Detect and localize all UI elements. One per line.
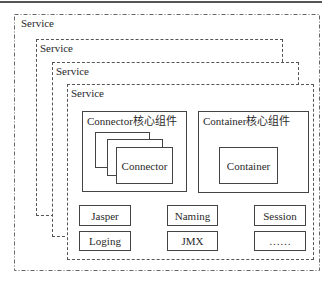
component-session: Session <box>254 205 306 226</box>
component-label: Session <box>263 210 297 222</box>
component-jmx: JMX <box>167 231 218 251</box>
service-label-1: Service <box>21 17 54 29</box>
component-label: …… <box>269 235 291 247</box>
connector-group-title: Connector核心组件 <box>87 115 177 127</box>
service-label-2: Service <box>40 42 73 54</box>
container-label: Container <box>227 160 270 172</box>
connector-box: Connector <box>116 147 173 184</box>
service-label-3: Service <box>56 65 89 77</box>
container-group-title: Container核心组件 <box>203 115 290 127</box>
service-label-4: Service <box>71 87 104 99</box>
component-label: Loging <box>89 235 121 247</box>
connector-label: Connector <box>122 160 168 172</box>
component-loging: Loging <box>79 231 131 251</box>
component-label: Naming <box>175 210 210 222</box>
component-more: …… <box>254 231 306 251</box>
component-naming: Naming <box>167 205 218 226</box>
container-box: Container <box>219 147 278 184</box>
component-label: JMX <box>181 235 203 247</box>
component-label: Jasper <box>91 210 119 222</box>
component-jasper: Jasper <box>79 205 131 226</box>
